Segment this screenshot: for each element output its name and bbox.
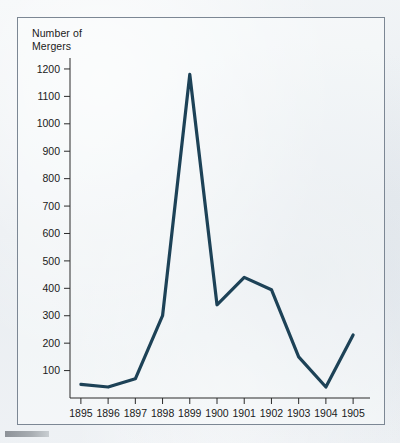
y-axis-tick-label: 600 xyxy=(42,227,60,239)
y-axis-tick-label: 500 xyxy=(42,255,60,267)
x-axis-tick-label: 1901 xyxy=(233,407,257,419)
figure-frame: Number of Mergers 1002003004005006007008… xyxy=(17,17,385,425)
x-axis-tick-label: 1896 xyxy=(96,407,120,419)
chart-plot-svg: 100200300400500600700800900100011001200 … xyxy=(18,18,386,426)
x-axis-tick-label: 1905 xyxy=(341,407,365,419)
y-axis-tick-label: 300 xyxy=(42,309,60,321)
y-axis-tick-label: 400 xyxy=(42,282,60,294)
x-axis-labels: 1895189618971898189919001901190219031904… xyxy=(69,407,365,419)
x-axis-tick-label: 1902 xyxy=(260,407,284,419)
y-axis-labels: 100200300400500600700800900100011001200 xyxy=(37,63,61,377)
y-axis-tick-label: 900 xyxy=(42,145,60,157)
x-axis-tick-label: 1897 xyxy=(124,407,148,419)
x-axis-tick-label: 1899 xyxy=(178,407,202,419)
y-axis-tick-label: 1200 xyxy=(37,63,61,75)
y-axis-tick-label: 100 xyxy=(42,364,60,376)
y-axis-tick-group xyxy=(64,69,70,371)
x-axis-tick-label: 1895 xyxy=(69,407,93,419)
x-axis-tick-group xyxy=(81,398,353,404)
bottom-gray-rule xyxy=(5,431,49,437)
x-axis-tick-label: 1903 xyxy=(287,407,311,419)
x-axis-tick-label: 1898 xyxy=(151,407,175,419)
y-axis-tick-label: 200 xyxy=(42,337,60,349)
y-axis-tick-label: 1000 xyxy=(37,117,61,129)
x-axis-tick-label: 1900 xyxy=(205,407,229,419)
x-axis-tick-label: 1904 xyxy=(314,407,338,419)
merger-line-chart: Number of Mergers 1002003004005006007008… xyxy=(18,18,386,426)
y-axis-tick-label: 1100 xyxy=(37,90,60,102)
y-axis-tick-label: 700 xyxy=(42,200,60,212)
data-series-line xyxy=(81,74,353,387)
y-axis-tick-label: 800 xyxy=(42,172,60,184)
